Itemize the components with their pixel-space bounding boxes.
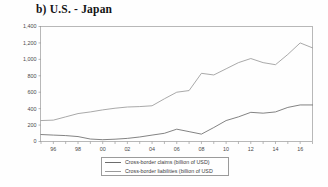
chart-figure: b) U.S. - Japan 02004006008001,0001,2001… <box>0 0 328 187</box>
data-series-group <box>41 43 313 140</box>
x-axis-tick-group: 9698000204060810121416 <box>41 142 313 152</box>
x-axis-tick-label: 98 <box>75 146 81 152</box>
series-line-liabilities <box>41 43 313 121</box>
x-axis-tick-label: 08 <box>198 146 204 152</box>
x-axis-tick-label: 00 <box>100 146 106 152</box>
y-axis-tick-label: 1,400 <box>23 23 37 29</box>
x-axis-tick-label: 96 <box>50 146 56 152</box>
y-axis-tick-label: 1,000 <box>23 56 37 62</box>
line-swatch-claims-icon <box>105 162 121 163</box>
x-axis-tick-label: 02 <box>124 146 130 152</box>
series-line-claims <box>41 105 313 140</box>
plot-frame <box>41 27 313 142</box>
y-axis-tick-label: 600 <box>28 89 37 95</box>
x-axis-tick-label: 14 <box>272 146 278 152</box>
chart-legend: Cross-border claims (billion of USD) Cro… <box>101 157 229 176</box>
y-axis-tick-group: 02004006008001,0001,2001,400 <box>23 23 41 144</box>
x-axis-tick-label: 12 <box>248 146 254 152</box>
x-axis-tick-label: 04 <box>149 146 155 152</box>
legend-label-liabilities: Cross-border liabilities (billion of USD <box>125 167 213 176</box>
y-axis-tick-label: 400 <box>28 106 37 112</box>
y-axis-tick-label: 200 <box>28 122 37 128</box>
legend-item-claims: Cross-border claims (billion of USD) <box>105 158 228 167</box>
y-axis-tick-label: 0 <box>34 138 37 144</box>
x-axis-tick-label: 06 <box>174 146 180 152</box>
y-axis-tick-label: 800 <box>28 73 37 79</box>
x-axis-tick-label: 10 <box>223 146 229 152</box>
legend-item-liabilities: Cross-border liabilities (billion of USD <box>105 167 228 176</box>
line-swatch-liabilities-icon <box>105 171 121 172</box>
y-axis-tick-label: 1,200 <box>23 40 37 46</box>
legend-label-claims: Cross-border claims (billion of USD) <box>125 158 209 167</box>
x-axis-tick-label: 16 <box>297 146 303 152</box>
